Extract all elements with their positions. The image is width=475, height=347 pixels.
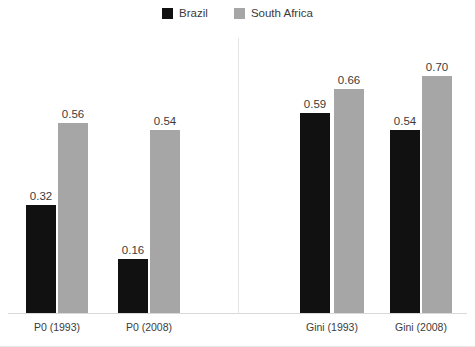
bar-value-brazil-p0-1993: 0.32 (26, 191, 56, 203)
bar-value-brazil-gini-2008: 0.54 (390, 116, 420, 128)
bar-brazil-p0-2008[interactable] (118, 259, 148, 313)
category-label-gini-2008: Gini (2008) (371, 322, 471, 333)
category-label-p0-2008: P0 (2008) (99, 322, 199, 333)
plot-area: 0.32 0.56 0.16 0.54 0.59 0.66 0.54 0.70 (0, 30, 475, 314)
bar-value-southafrica-gini-2008: 0.70 (422, 62, 452, 74)
category-label-p0-1993: P0 (1993) (7, 322, 107, 333)
legend-swatch-south-africa (234, 8, 245, 19)
chart-legend: Brazil South Africa (0, 8, 475, 20)
bar-southafrica-p0-2008[interactable] (150, 130, 180, 313)
bar-value-southafrica-p0-1993: 0.56 (58, 109, 88, 121)
bar-brazil-p0-1993[interactable] (26, 205, 56, 313)
legend-item-brazil[interactable]: Brazil (162, 8, 208, 20)
bar-chart: Brazil South Africa 0.32 0.56 0.16 0.54 … (0, 0, 475, 347)
bar-southafrica-p0-1993[interactable] (58, 123, 88, 313)
legend-swatch-brazil (162, 8, 173, 19)
bar-brazil-gini-2008[interactable] (390, 130, 420, 313)
bar-southafrica-gini-1993[interactable] (334, 89, 364, 313)
bar-value-brazil-gini-1993: 0.59 (300, 99, 330, 111)
bar-value-southafrica-p0-2008: 0.54 (150, 116, 180, 128)
category-label-gini-1993: Gini (1993) (282, 322, 382, 333)
bar-southafrica-gini-2008[interactable] (422, 76, 452, 313)
bar-brazil-gini-1993[interactable] (300, 113, 330, 313)
bar-value-brazil-p0-2008: 0.16 (118, 245, 148, 257)
panel-divider (238, 38, 239, 314)
legend-label-south-africa: South Africa (251, 8, 313, 20)
legend-item-south-africa[interactable]: South Africa (234, 8, 313, 20)
legend-label-brazil: Brazil (179, 8, 208, 20)
bar-value-southafrica-gini-1993: 0.66 (334, 75, 364, 87)
category-axis-line (8, 313, 467, 314)
